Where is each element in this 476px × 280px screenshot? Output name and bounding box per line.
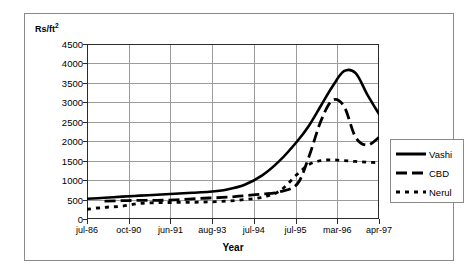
y-axis-tick-label: 500 (67, 194, 83, 205)
legend-item-nerul[interactable]: Nerul (395, 183, 461, 201)
x-axis-tick-mark (212, 219, 213, 224)
y-axis-tick-label: 3500 (62, 77, 83, 88)
plot-area (87, 44, 379, 219)
x-axis-title: Year (87, 242, 379, 253)
x-axis-tick-mark (296, 219, 297, 224)
legend-label-nerul: Nerul (429, 187, 452, 198)
x-axis-tick-mark (254, 219, 255, 224)
x-axis-tick-mark (129, 219, 130, 224)
series-lines (87, 44, 379, 219)
x-axis-tick-label: jul-94 (243, 225, 265, 235)
legend-swatch-nerul (395, 186, 427, 198)
x-axis-tick-labels: jul-86oct-90jun-91aug-93jul-94jul-95mar-… (87, 219, 379, 239)
x-axis-tick-mark (170, 219, 171, 224)
y-axis-tick-labels: 050010001500200025003000350040004500 (39, 44, 83, 219)
y-axis-unit-exponent: 2 (55, 22, 59, 29)
y-axis-unit-label: Rs/ft2 (35, 22, 59, 34)
legend-item-vashi[interactable]: Vashi (395, 145, 461, 163)
series-line-vashi (87, 70, 379, 199)
x-axis-tick-label: jun-91 (158, 225, 183, 235)
y-axis-tick-label: 4000 (62, 58, 83, 69)
y-axis-tick-label: 1000 (62, 175, 83, 186)
y-axis-tick-label: 3000 (62, 97, 83, 108)
x-axis-tick-label: aug-93 (198, 225, 226, 235)
legend-swatch-vashi (395, 148, 427, 160)
figure-frame: Rs/ft2 050010001500200025003000350040004… (24, 13, 454, 261)
legend-swatch-cbd (395, 167, 427, 179)
y-axis-tick-label: 2500 (62, 116, 83, 127)
y-axis-tick-label: 1500 (62, 155, 83, 166)
x-axis-tick-label: jul-95 (285, 225, 307, 235)
x-axis-tick-label: jul-86 (76, 225, 98, 235)
y-axis-tick-label: 2000 (62, 136, 83, 147)
chart-legend: VashiCBDNerul (390, 139, 464, 203)
x-axis-tick-mark (379, 219, 380, 224)
x-axis-tick-label: mar-96 (323, 225, 352, 235)
x-axis-tick-label: oct-90 (116, 225, 141, 235)
y-axis-unit-text: Rs/ft (35, 24, 55, 34)
y-axis-tick-label: 4500 (62, 39, 83, 50)
legend-label-vashi: Vashi (429, 149, 452, 160)
legend-item-cbd[interactable]: CBD (395, 164, 461, 182)
x-axis-tick-mark (87, 219, 88, 224)
legend-label-cbd: CBD (429, 168, 449, 179)
x-axis-tick-label: apr-97 (366, 225, 392, 235)
x-axis-tick-mark (337, 219, 338, 224)
